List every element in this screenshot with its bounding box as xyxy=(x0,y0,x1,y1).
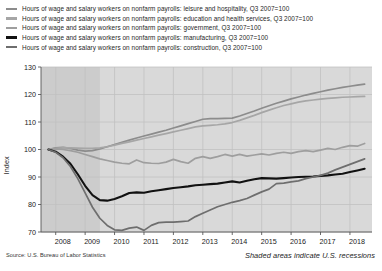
legend-swatch-icon xyxy=(6,8,17,10)
x-tick-label: 2009 xyxy=(84,237,100,246)
y-tick-label: 120 xyxy=(24,90,36,99)
legend-item-label: Hours of wage and salary workers on nonf… xyxy=(22,4,289,13)
legend-item-label: Hours of wage and salary workers on nonf… xyxy=(22,33,268,42)
legend-swatch-icon xyxy=(6,17,17,19)
x-tick-label: 2016 xyxy=(290,237,306,246)
legend-swatch-icon xyxy=(6,46,17,48)
x-tick-label: 2013 xyxy=(202,237,218,246)
y-tick-label: 90 xyxy=(28,173,36,182)
legend-swatch-icon xyxy=(6,36,17,38)
chart-container: Hours of wage and salary workers on nonf… xyxy=(0,0,382,271)
y-tick-label: 80 xyxy=(28,200,36,209)
legend-item-manufacturing[interactable]: Hours of wage and salary workers on nonf… xyxy=(0,33,382,43)
x-tick-label: 2011 xyxy=(143,237,158,246)
y-tick-label: 110 xyxy=(25,118,36,127)
source-note: Source: U.S. Bureau of Labor Statistics xyxy=(6,252,106,258)
legend-item-government[interactable]: Hours of wage and salary workers on nonf… xyxy=(0,23,382,33)
y-tick-label: 100 xyxy=(24,145,36,154)
y-tick-label: 130 xyxy=(24,63,36,72)
x-tick-label: 2014 xyxy=(231,237,247,246)
plot-area: Index 1301201101009080702008200920102011… xyxy=(0,58,382,248)
x-tick-label: 2008 xyxy=(55,237,71,246)
x-tick-label: 2012 xyxy=(172,237,188,246)
x-tick-label: 2010 xyxy=(114,237,130,246)
recession-note: Shaded areas indicate U.S. recessions xyxy=(245,251,375,260)
chart-legend: Hours of wage and salary workers on nonf… xyxy=(0,4,382,52)
y-axis-label: Index xyxy=(2,161,11,175)
legend-item-leisure_and_hospitality[interactable]: Hours of wage and salary workers on nonf… xyxy=(0,4,382,14)
legend-item-label: Hours of wage and salary workers on nonf… xyxy=(22,43,262,52)
chart-footer: Source: U.S. Bureau of Labor Statistics … xyxy=(0,252,382,268)
x-tick-label: 2015 xyxy=(261,237,277,246)
x-tick-label: 2017 xyxy=(320,237,336,246)
y-tick-label: 70 xyxy=(28,228,36,237)
line-chart-svg: 1301201101009080702008200920102011201220… xyxy=(0,58,382,248)
legend-item-label: Hours of wage and salary workers on nonf… xyxy=(22,14,313,23)
legend-item-education_and_health_services[interactable]: Hours of wage and salary workers on nonf… xyxy=(0,14,382,24)
legend-item-label: Hours of wage and salary workers on nonf… xyxy=(22,23,261,32)
legend-swatch-icon xyxy=(6,27,17,29)
x-tick-label: 2018 xyxy=(349,237,365,246)
legend-item-construction[interactable]: Hours of wage and salary workers on nonf… xyxy=(0,42,382,52)
